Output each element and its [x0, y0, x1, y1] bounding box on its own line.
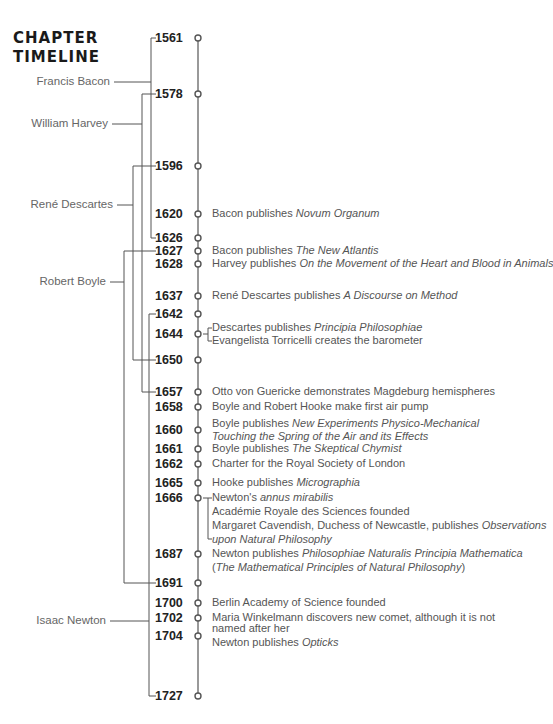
year-label: 1660: [155, 423, 195, 437]
person-william-harvey: William Harvey: [31, 117, 108, 129]
event-line: Académie Royale des Sciences founded: [212, 505, 410, 519]
event-line: upon Natural Philosophy: [212, 533, 332, 547]
event-line: Berlin Academy of Science founded: [212, 596, 386, 610]
event-line: Newton publishes Opticks: [212, 636, 339, 650]
year-label: 1644: [155, 327, 195, 341]
year-label: 1700: [155, 596, 195, 610]
event-line: Harvey publishes On the Movement of the …: [212, 257, 553, 271]
year-label: 1657: [155, 385, 195, 399]
year-label: 1691: [155, 576, 195, 590]
year-label: 1727: [155, 689, 195, 703]
event-line: René Descartes publishes A Discourse on …: [212, 289, 457, 303]
year-label: 1642: [155, 307, 195, 321]
year-label: 1665: [155, 476, 195, 490]
year-label: 1702: [155, 611, 195, 625]
event-line: Otto von Guericke demonstrates Magdeburg…: [212, 385, 495, 399]
year-label: 1561: [155, 31, 195, 45]
event-line: Hooke publishes Micrographia: [212, 476, 360, 490]
event-line: Margaret Cavendish, Duchess of Newcastle…: [212, 519, 546, 533]
boyle-lifespan-bracket: [124, 251, 156, 583]
event-line: Charter for the Royal Society of London: [212, 457, 405, 471]
descartes-lifespan-bracket: [133, 166, 156, 360]
person-isaac-newton: Isaac Newton: [36, 614, 106, 626]
year-label: 1596: [155, 159, 195, 173]
person-robert-boyle: Robert Boyle: [40, 275, 106, 287]
event-line: Bacon publishes The New Atlantis: [212, 244, 379, 258]
year-label: 1627: [155, 244, 195, 258]
event-line: named after her: [212, 622, 290, 636]
year-label: 1637: [155, 289, 195, 303]
event-line: Newton's annus mirabilis: [212, 491, 333, 505]
event-line: Boyle and Robert Hooke make first air pu…: [212, 400, 428, 414]
event-line: Bacon publishes Novum Organum: [212, 207, 380, 221]
year-label: 1687: [155, 547, 195, 561]
year-label: 1666: [155, 491, 195, 505]
person-rene-descartes: René Descartes: [31, 198, 113, 210]
year-label: 1650: [155, 353, 195, 367]
event-line: Boyle publishes New Experiments Physico-…: [212, 417, 479, 431]
year-label: 1628: [155, 257, 195, 271]
year-label: 1661: [155, 442, 195, 456]
year-label: 1704: [155, 629, 195, 643]
event-line: Boyle publishes The Skeptical Chymist: [212, 442, 402, 456]
event-line: (The Mathematical Principles of Natural …: [212, 561, 465, 575]
year-label: 1662: [155, 457, 195, 471]
event-line: Evangelista Torricelli creates the barom…: [212, 334, 423, 348]
event-line: Newton publishes Philosophiae Naturalis …: [212, 547, 523, 561]
person-francis-bacon: Francis Bacon: [36, 75, 110, 87]
year-label: 1578: [155, 87, 195, 101]
year-label: 1626: [155, 231, 195, 245]
year-label: 1620: [155, 207, 195, 221]
year-label: 1658: [155, 400, 195, 414]
event-line: Descartes publishes Principia Philosophi…: [212, 321, 422, 335]
